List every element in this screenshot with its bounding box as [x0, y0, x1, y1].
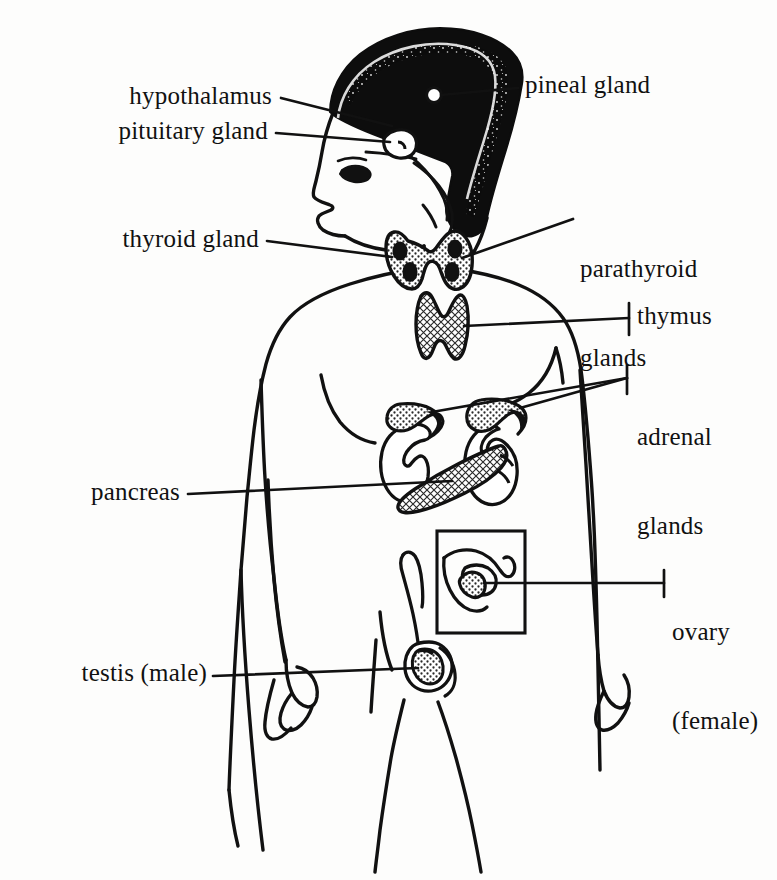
eye-shape: [340, 166, 371, 182]
vas-deferens-line: [401, 555, 419, 651]
label-adrenal-line1: adrenal: [637, 422, 777, 452]
thymus-organ: [416, 293, 468, 359]
right-hand-line: [598, 655, 629, 708]
pineal-gland-organ: [427, 88, 442, 103]
label-pancreas: pancreas: [0, 479, 180, 506]
left-leg-line: [241, 570, 263, 850]
label-hypothalamus: hypothalamus: [0, 83, 272, 110]
pineal-dot: [427, 88, 442, 103]
parathyroid-dot-upper-left: [394, 243, 406, 259]
vas-deferens-loop: [403, 552, 423, 607]
crotch-left-line: [375, 700, 404, 872]
thymus-shape: [416, 293, 468, 359]
testis-organ: [401, 552, 455, 696]
label-adrenal-line2: glands: [637, 511, 777, 541]
pituitary-gland-organ: [384, 130, 417, 159]
ear-opening-line: [423, 205, 436, 227]
scalp-hair-mass: [330, 28, 523, 237]
eyebrow-line: [338, 158, 366, 161]
chest-upper-right-line: [556, 348, 563, 383]
ovary-shape: [459, 572, 485, 597]
right-shoulder-torso-line: [456, 269, 600, 770]
label-ovary: ovary (female): [672, 558, 777, 794]
parathyroid-dot-lower-left: [404, 264, 416, 281]
label-ovary-line1: ovary: [672, 617, 777, 647]
endocrine-system-figure: hypothalamus pituitary gland pineal glan…: [0, 0, 777, 880]
label-thymus: thymus: [637, 303, 712, 330]
label-pineal-gland: pineal gland: [525, 72, 650, 99]
label-parathyroid-line1: parathyroid: [580, 254, 760, 284]
pituitary-shape: [384, 130, 417, 159]
parathyroid-dot-lower-right: [446, 264, 458, 281]
hip-left-line: [380, 612, 392, 670]
left-shoulder-torso-line: [229, 268, 421, 790]
crotch-right-line: [438, 702, 481, 872]
left-hand-line: [286, 660, 317, 707]
label-ovary-line2: (female): [672, 706, 777, 736]
eye: [338, 158, 371, 182]
testis-shape: [412, 649, 443, 684]
left-arm-line: [261, 380, 286, 660]
label-thyroid-gland: thyroid gland: [0, 226, 259, 253]
left-pectoral-line: [321, 375, 375, 443]
leader-testis: [213, 668, 418, 676]
parathyroid-dot-upper-right: [449, 241, 461, 257]
left-leg-outer-line: [229, 790, 238, 846]
label-testis: testis (male): [0, 660, 207, 687]
left-thigh-inner-line: [371, 640, 376, 712]
left-hand-inner-line: [265, 680, 291, 739]
label-pituitary-gland: pituitary gland: [0, 118, 268, 145]
